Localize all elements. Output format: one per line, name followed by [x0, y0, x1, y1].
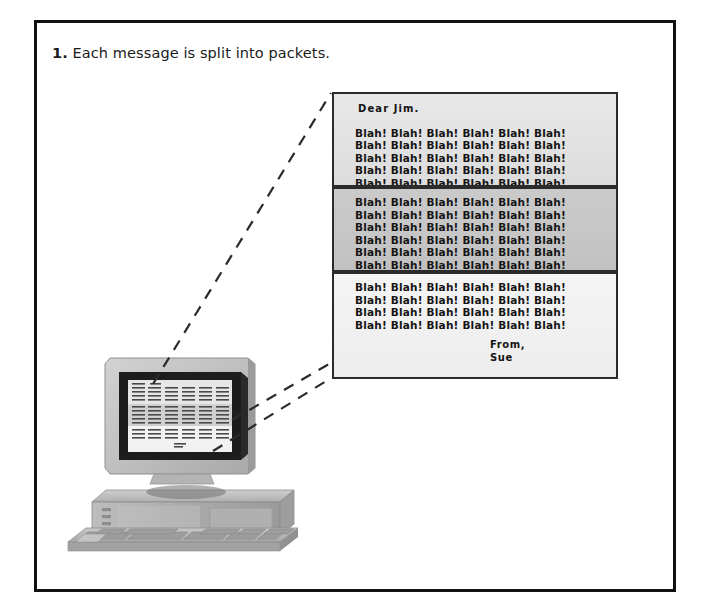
computer-svg — [62, 356, 310, 558]
blah-line: Blah! Blah! Blah! Blah! Blah! Blah! — [355, 259, 616, 272]
blah-line: Blah! Blah! Blah! Blah! Blah! Blah! — [355, 234, 616, 247]
blah-line: Blah! Blah! Blah! Blah! Blah! Blah! — [355, 246, 616, 259]
blah-line: Blah! Blah! Blah! Blah! Blah! Blah! — [355, 139, 616, 152]
blah-line: Blah! Blah! Blah! Blah! Blah! Blah! — [355, 294, 616, 307]
packet-2-body: Blah! Blah! Blah! Blah! Blah! Blah! Blah… — [355, 196, 616, 272]
figure-caption: 1. Each message is split into packets. — [52, 45, 330, 61]
signoff-block: From, Sue — [490, 339, 616, 364]
packet-3-body: Blah! Blah! Blah! Blah! Blah! Blah! Blah… — [355, 281, 616, 331]
monitor — [105, 358, 255, 484]
signoff-name: Sue — [490, 352, 616, 365]
caption-text: Each message is split into packets. — [73, 45, 331, 61]
blah-line: Blah! Blah! Blah! Blah! Blah! Blah! — [355, 127, 616, 140]
blah-line: Blah! Blah! Blah! Blah! Blah! Blah! — [355, 306, 616, 319]
packet-1[interactable]: Dear Jim. Blah! Blah! Blah! Blah! Blah! … — [332, 92, 618, 187]
keyboard — [68, 528, 298, 551]
blah-line: Blah! Blah! Blah! Blah! Blah! Blah! — [355, 281, 616, 294]
monitor-screen — [128, 380, 232, 452]
packet-2[interactable]: Blah! Blah! Blah! Blah! Blah! Blah! Blah… — [332, 187, 618, 272]
blah-line: Blah! Blah! Blah! Blah! Blah! Blah! — [355, 196, 616, 209]
blah-line: Blah! Blah! Blah! Blah! Blah! Blah! — [355, 319, 616, 332]
blah-line: Blah! Blah! Blah! Blah! Blah! Blah! — [355, 177, 616, 187]
blah-line: Blah! Blah! Blah! Blah! Blah! Blah! — [355, 209, 616, 222]
salutation: Dear Jim. — [358, 103, 616, 116]
blah-line: Blah! Blah! Blah! Blah! Blah! Blah! — [355, 152, 616, 165]
packet-1-body: Blah! Blah! Blah! Blah! Blah! Blah! Blah… — [355, 127, 616, 187]
message-document: Dear Jim. Blah! Blah! Blah! Blah! Blah! … — [332, 92, 618, 379]
blah-line: Blah! Blah! Blah! Blah! Blah! Blah! — [355, 221, 616, 234]
caption-step-number: 1. — [52, 45, 68, 61]
blah-line: Blah! Blah! Blah! Blah! Blah! Blah! — [355, 164, 616, 177]
desktop-computer-illustration — [62, 356, 310, 558]
signoff-closing: From, — [490, 339, 616, 352]
packet-3[interactable]: Blah! Blah! Blah! Blah! Blah! Blah! Blah… — [332, 272, 618, 379]
